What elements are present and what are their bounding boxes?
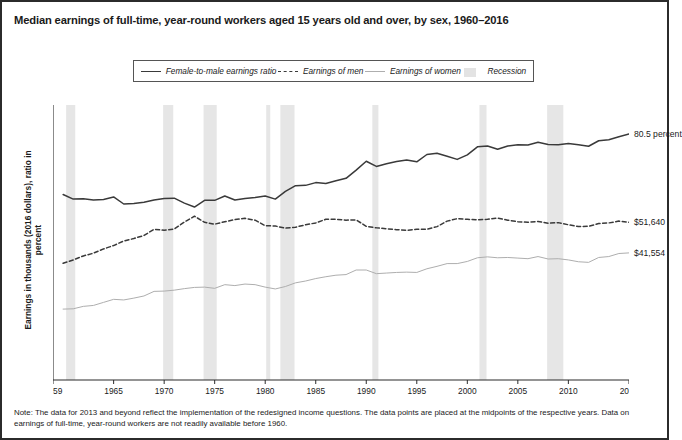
end-label-men: $51,640 bbox=[634, 217, 665, 227]
legend-label-ratio: Female-to-male earnings ratio bbox=[166, 66, 277, 76]
x-axis-tick-label: 1965 bbox=[104, 386, 123, 396]
series-line bbox=[63, 216, 629, 263]
legend-item-ratio[interactable]: Female-to-male earnings ratio bbox=[141, 66, 277, 76]
series-line bbox=[63, 253, 629, 309]
x-axis-tick-label: 1980 bbox=[256, 386, 275, 396]
legend-label-women: Earnings of women bbox=[390, 66, 461, 76]
legend-label-men: Earnings of men bbox=[303, 66, 363, 76]
y-axis-label: Earnings in thousands (2016 dollars), ra… bbox=[23, 140, 43, 340]
dashed-line-icon bbox=[278, 67, 298, 76]
x-axis-tick-label: 1970 bbox=[155, 386, 174, 396]
shaded-box-icon bbox=[462, 67, 482, 76]
chart-legend: Female-to-male earnings ratio Earnings o… bbox=[133, 60, 534, 82]
x-axis-tick-label: 1990 bbox=[357, 386, 376, 396]
solid-line-icon bbox=[141, 67, 161, 76]
x-axis-tick-label: 2005 bbox=[509, 386, 528, 396]
recession-band bbox=[372, 105, 378, 380]
page-title: Median earnings of full-time, year-round… bbox=[14, 14, 654, 27]
recession-band bbox=[547, 105, 563, 380]
recession-band bbox=[280, 105, 294, 380]
end-label-ratio: 80.5 percent bbox=[634, 129, 682, 139]
x-axis-tick-label: 2000 bbox=[458, 386, 477, 396]
legend-label-recession: Recession bbox=[487, 66, 526, 76]
x-axis-tick-label: 2010 bbox=[559, 386, 578, 396]
legend-item-recession[interactable]: Recession bbox=[462, 66, 526, 76]
figure-note: Note: The data for 2013 and beyond refle… bbox=[14, 408, 660, 429]
legend-item-men[interactable]: Earnings of men bbox=[278, 66, 363, 76]
legend-item-women[interactable]: Earnings of women bbox=[365, 66, 461, 76]
recession-band bbox=[66, 105, 75, 380]
chart-svg: 0102030405060708090195919651970197519801… bbox=[53, 97, 629, 397]
end-label-women: $41,554 bbox=[634, 248, 665, 258]
x-axis-tick-label: 1959 bbox=[53, 386, 63, 396]
recession-band bbox=[163, 105, 173, 380]
recession-band bbox=[266, 105, 270, 380]
series-line bbox=[63, 134, 629, 207]
x-axis-tick-label: 1985 bbox=[306, 386, 325, 396]
x-axis-tick-label: 1975 bbox=[205, 386, 224, 396]
x-axis-tick-label: 1995 bbox=[407, 386, 426, 396]
recession-band bbox=[204, 105, 217, 380]
x-axis-tick-label: 2016 bbox=[620, 386, 629, 396]
plot-area: 0102030405060708090195919651970197519801… bbox=[53, 97, 629, 380]
light-line-icon bbox=[365, 67, 385, 76]
